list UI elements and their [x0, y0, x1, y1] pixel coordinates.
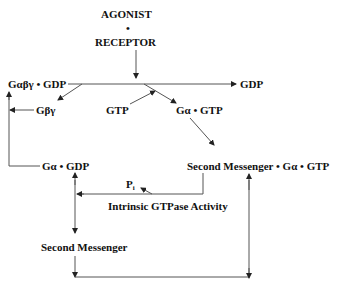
gtp-label: GTP [106, 104, 129, 116]
g-alpha-beta-gamma-gdp-label: Gαβγ • GDP [8, 78, 66, 90]
gtpase-activity-label: Intrinsic GTPase Activity [108, 200, 228, 212]
gdp-released-label: GDP [240, 78, 263, 90]
g-alpha-gdp-label: Gα • GDP [42, 160, 89, 172]
phosphate-label: Pi [126, 178, 135, 194]
g-beta-gamma-label: Gβγ [36, 104, 56, 116]
agonist-label: AGONIST [101, 8, 152, 20]
binding-dot: • [126, 22, 130, 34]
g-alpha-gtp-label: Gα • GTP [176, 104, 223, 116]
second-messenger-complex-label: Second Messenger • Gα • GTP [187, 160, 329, 172]
second-messenger-label: Second Messenger [41, 241, 127, 253]
receptor-label: RECEPTOR [95, 36, 156, 48]
